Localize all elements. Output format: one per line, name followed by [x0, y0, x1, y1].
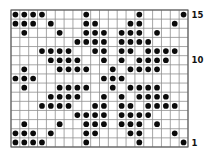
chart-dot — [172, 130, 178, 136]
chart-dot — [83, 140, 89, 146]
chart-dot — [128, 103, 134, 109]
chart-dot — [30, 76, 36, 82]
chart-dot — [21, 76, 27, 82]
chart-dot — [154, 94, 160, 100]
chart-dot — [66, 94, 72, 100]
chart-dot — [154, 30, 160, 36]
chart-dot — [83, 85, 89, 91]
row-label-1: 1 — [192, 138, 198, 148]
chart-dot — [75, 85, 81, 91]
chart-dot — [92, 121, 98, 127]
chart-dot — [30, 12, 36, 18]
chart-dot — [92, 48, 98, 54]
chart-dot — [145, 94, 151, 100]
chart-dot — [181, 140, 187, 146]
chart-dot — [136, 140, 142, 146]
chart-dot — [101, 112, 107, 118]
chart-dot — [128, 21, 134, 27]
chart-dot — [101, 94, 107, 100]
chart-dot — [75, 39, 81, 45]
chart-dot — [110, 76, 116, 82]
chart-dot — [13, 12, 19, 18]
chart-dot — [83, 67, 89, 73]
chart-dot — [101, 57, 107, 63]
chart-dot — [66, 85, 72, 91]
chart-dot — [83, 12, 89, 18]
chart-dot — [66, 67, 72, 73]
chart-dot — [145, 67, 151, 73]
chart-dot — [163, 94, 169, 100]
chart-dot — [48, 48, 54, 54]
chart-dot — [172, 103, 178, 109]
chart-dot — [154, 67, 160, 73]
chart-dot — [39, 12, 45, 18]
chart-dot — [13, 21, 19, 27]
chart-dot — [163, 103, 169, 109]
chart-dot — [145, 39, 151, 45]
chart-dot — [119, 57, 125, 63]
chart-dot — [119, 103, 125, 109]
chart-dot — [13, 140, 19, 146]
chart-dot — [119, 94, 125, 100]
chart-dot — [39, 140, 45, 146]
chart-dot — [163, 57, 169, 63]
chart-dot — [172, 48, 178, 54]
chart-dot — [136, 85, 142, 91]
chart-dot — [83, 130, 89, 136]
chart-dot — [128, 30, 134, 36]
chart-dot — [57, 103, 63, 109]
chart-dot — [101, 48, 107, 54]
chart-dot — [136, 30, 142, 36]
chart-dot — [57, 94, 63, 100]
chart-dot — [57, 85, 63, 91]
chart-dot — [136, 39, 142, 45]
chart-dot — [92, 30, 98, 36]
chart-dot — [21, 130, 27, 136]
chart-dot — [145, 103, 151, 109]
chart-dot — [101, 103, 107, 109]
chart-dot — [66, 103, 72, 109]
chart-dot — [83, 121, 89, 127]
chart-dot — [92, 21, 98, 27]
chart-dot — [13, 76, 19, 82]
chart-dot — [21, 12, 27, 18]
chart-dot — [75, 67, 81, 73]
chart-dot — [57, 48, 63, 54]
chart-dot — [48, 130, 54, 136]
chart-dot — [101, 76, 107, 82]
grid-lines — [11, 10, 188, 147]
chart-dot — [48, 103, 54, 109]
chart-dot — [119, 121, 125, 127]
chart-dot — [57, 30, 63, 36]
chart-dot — [172, 21, 178, 27]
chart-dot — [21, 21, 27, 27]
chart-dot — [48, 94, 54, 100]
chart-dot — [136, 94, 142, 100]
chart-dot — [92, 103, 98, 109]
chart-dot — [21, 30, 27, 36]
chart-dot — [83, 21, 89, 27]
chart-dot — [57, 57, 63, 63]
chart-dot — [39, 103, 45, 109]
chart-dot — [30, 21, 36, 27]
chart-dot — [119, 112, 125, 118]
chart-dot — [83, 39, 89, 45]
chart-dot — [101, 121, 107, 127]
chart-dot — [48, 57, 54, 63]
row-label-10: 10 — [192, 55, 204, 65]
chart-dot — [154, 85, 160, 91]
chart-dot — [110, 67, 116, 73]
chart-dot — [66, 57, 72, 63]
chart-dot — [39, 48, 45, 54]
chart-dot — [128, 85, 134, 91]
knitting-chart: 15101 — [0, 0, 212, 159]
chart-dot — [145, 48, 151, 54]
chart-dot — [119, 48, 125, 54]
chart-dot — [163, 48, 169, 54]
chart-dot — [30, 130, 36, 136]
chart-dot — [136, 12, 142, 18]
chart-dot — [128, 39, 134, 45]
chart-dot — [128, 48, 134, 54]
row-label-15: 15 — [192, 10, 204, 20]
chart-dot — [21, 140, 27, 146]
